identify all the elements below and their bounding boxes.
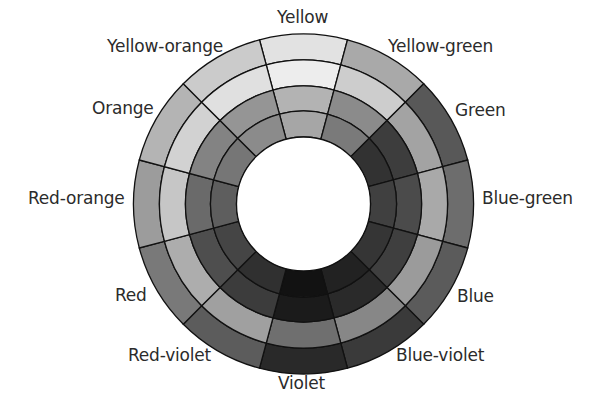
sector-red-orange-ring-4 (211, 180, 239, 228)
label-yellow-orange: Yellow-orange (107, 38, 223, 55)
label-violet: Violet (278, 375, 325, 392)
label-orange: Orange (92, 100, 154, 117)
label-red-violet: Red-violet (128, 347, 211, 364)
sector-violet-ring-4 (279, 269, 327, 297)
label-yellow-green: Yellow-green (388, 38, 493, 55)
label-blue: Blue (457, 288, 494, 305)
wheel-center-hole (237, 137, 371, 271)
label-yellow: Yellow (277, 9, 328, 26)
sector-blue-green-ring-3 (393, 173, 421, 234)
sector-yellow-ring-3 (273, 86, 334, 114)
label-red: Red (115, 287, 147, 304)
label-green: Green (455, 102, 505, 119)
sector-blue-green-ring-4 (368, 180, 396, 228)
sector-violet-ring-3 (273, 294, 334, 322)
sector-yellow-ring-4 (279, 111, 327, 139)
label-blue-violet: Blue-violet (396, 347, 484, 364)
label-red-orange: Red-orange (28, 190, 125, 207)
sector-red-orange-ring-3 (185, 173, 213, 234)
label-blue-green: Blue-green (482, 190, 573, 207)
